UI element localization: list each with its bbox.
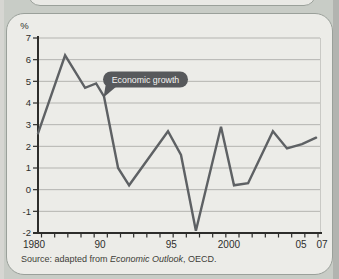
page: 76543210-1-2%1980909520000507Economic gr… (0, 0, 339, 279)
y-axis-tick-label: 4 (26, 97, 31, 108)
y-axis-tick-label: 7 (26, 32, 31, 43)
x-axis-tick-label: 95 (166, 239, 178, 250)
annotation-label: Economic growth (112, 75, 180, 85)
y-axis-tick-label: 5 (26, 76, 31, 87)
y-axis-tick-label: -2 (23, 227, 31, 238)
y-axis-unit-label: % (20, 20, 29, 31)
x-axis-tick-label: 90 (94, 239, 106, 250)
y-axis-tick-label: 0 (26, 184, 31, 195)
y-axis-tick-label: 6 (26, 54, 31, 65)
y-axis-tick-label: 1 (26, 162, 31, 173)
source-text-suffix: , OECD. (183, 254, 217, 264)
source-text-prefix: Source: adapted from (21, 254, 110, 264)
x-axis-tick-label: 07 (316, 239, 328, 250)
y-axis-tick-label: 3 (26, 119, 31, 130)
source-caption: Source: adapted from Economic Outlook, O… (21, 254, 217, 264)
source-text-italic: Economic Outlook (110, 254, 183, 264)
x-axis-tick-label: 05 (296, 239, 308, 250)
economic-growth-line-chart: 76543210-1-2%1980909520000507Economic gr… (0, 0, 339, 279)
y-axis-tick-label: 2 (26, 141, 31, 152)
x-axis-tick-label: 1980 (23, 239, 46, 250)
y-axis-tick-label: -1 (23, 206, 31, 217)
annotation-bubble-tail (104, 86, 118, 98)
x-axis-tick-label: 2000 (218, 239, 241, 250)
